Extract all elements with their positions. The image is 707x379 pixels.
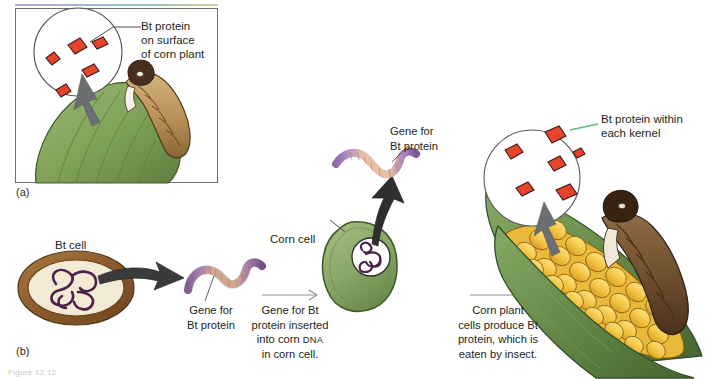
caption1-dna-smallcaps: DNA (303, 334, 323, 345)
magnifier-circle-kernels (484, 126, 585, 226)
caption1-line3-prefix: into corn (257, 333, 303, 345)
gene-left-leader-line (205, 276, 214, 301)
bt-protein-surface-callout: Bt protein on surface of corn plant (141, 19, 204, 61)
gene-left-label: Gene for Bt protein (168, 303, 254, 332)
caption-cells-produce-bt: Corn plant cells produce Bt protein, whi… (452, 303, 544, 361)
figure-root: Bt protein on surface of corn plant (a) … (0, 0, 707, 379)
corn-cell (323, 220, 397, 311)
magnifier-circle-leaf (34, 8, 122, 97)
bt-cell (18, 251, 134, 325)
figure-artwork (0, 0, 707, 379)
caption1-arrow (262, 290, 317, 300)
gene-top-label: Gene for Bt protein (390, 124, 460, 153)
panel-b-letter: (b) (16, 345, 29, 358)
corn-cell-label: Corn cell (270, 232, 315, 246)
bt-cell-label: Bt cell (55, 238, 86, 252)
kernel-callout-leader-line (570, 124, 598, 130)
gene-for-bt-protein-left (188, 263, 262, 301)
caption-gene-inserted: Gene for Bt protein inserted into corn D… (244, 303, 336, 361)
bt-protein-kernel-callout: Bt protein within each kernel (601, 112, 683, 140)
panel-a-letter: (a) (16, 186, 29, 199)
figure-footer-stub: Figure 12.12 (8, 368, 57, 377)
